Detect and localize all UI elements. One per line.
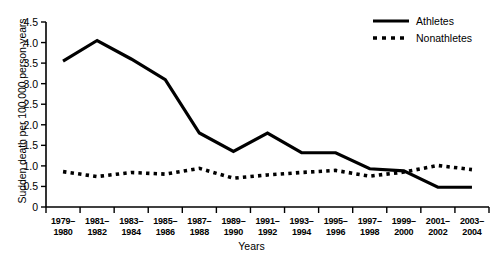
y-axis-tick-label: 3.0 (12, 79, 38, 89)
chart-figure: Sudden death per 100,000 person-years 00… (0, 0, 503, 261)
y-axis-tick-label: 0 (12, 202, 38, 212)
series-line-athletes (63, 41, 472, 188)
y-axis-tick-label: 0.5 (12, 181, 38, 191)
x-axis-tick-label: 2003–2004 (450, 216, 494, 238)
axes (41, 22, 489, 213)
legend-swatch-dotted-line-icon (372, 33, 410, 43)
legend-item-athletes: Athletes (372, 12, 502, 29)
y-axis-tick-label: 3.5 (12, 58, 38, 68)
y-axis-tick-label: 1.5 (12, 140, 38, 150)
legend-label-nonathletes: Nonathletes (416, 32, 472, 44)
legend-label-athletes: Athletes (416, 15, 454, 27)
x-axis-title: Years (0, 240, 503, 252)
legend-swatch-solid-line-icon (372, 16, 410, 26)
x-axis-ticks (46, 207, 489, 213)
y-axis-tick-label: 1.0 (12, 161, 38, 171)
chart-legend: Athletes Nonathletes (372, 12, 502, 46)
data-series-layer (63, 41, 472, 188)
y-axis-tick-label: 2.5 (12, 99, 38, 109)
legend-item-nonathletes: Nonathletes (372, 29, 502, 46)
y-axis-tick-label: 4.5 (12, 17, 38, 27)
y-axis-tick-label: 4.0 (12, 38, 38, 48)
series-line-nonathletes (63, 165, 472, 178)
y-axis-tick-label: 2.0 (12, 120, 38, 130)
